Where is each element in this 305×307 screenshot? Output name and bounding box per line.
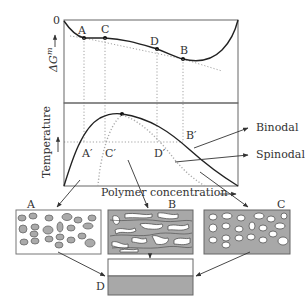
critical-point-marker xyxy=(120,112,124,116)
point-d-prime-label: D′ xyxy=(154,147,166,160)
delta-g-axis-label: ΔG m xyxy=(45,47,60,73)
morphology-d-label: D xyxy=(96,280,105,293)
point-a-label: A xyxy=(77,24,87,37)
x-axis-label: Polymer concentration xyxy=(101,186,228,199)
spinodal-label: Spinodal xyxy=(256,148,305,161)
phase-diagram: 0 ΔG m A C D B Temperature xyxy=(0,0,305,307)
binodal-pointer xyxy=(194,128,248,148)
common-tangent-line xyxy=(70,36,222,71)
point-d-label: D xyxy=(150,35,159,48)
phase-panel: Temperature A′ C′ D′ B′ Polymer concentr… xyxy=(40,103,305,199)
free-energy-panel: 0 ΔG m A C D B xyxy=(45,14,238,103)
arrow-to-a xyxy=(57,180,80,207)
arrow-to-b xyxy=(128,160,148,208)
svg-text:ΔG: ΔG xyxy=(47,55,60,73)
svg-text:m: m xyxy=(45,47,54,55)
morphology-b: B xyxy=(108,198,193,254)
arrow-c-to-d xyxy=(196,252,250,276)
point-b-prime-label: B′ xyxy=(186,129,197,142)
temperature-axis-label: Temperature xyxy=(40,106,53,178)
point-c-label: C xyxy=(101,23,109,36)
morphology-c-label: C xyxy=(277,198,285,211)
spinodal-pointer xyxy=(175,155,248,162)
point-b-label: B xyxy=(180,44,188,57)
svg-text:Temperature: Temperature xyxy=(40,106,53,178)
binodal-label: Binodal xyxy=(256,121,299,134)
morphology-a: A xyxy=(16,198,101,254)
point-c-prime-label: C′ xyxy=(105,147,116,160)
projection-lines xyxy=(64,38,183,142)
point-a-prime-label: A′ xyxy=(81,147,93,160)
zero-label: 0 xyxy=(53,14,60,27)
morphology-d: D xyxy=(96,259,193,295)
morphology-b-label: B xyxy=(168,198,176,211)
arrow-a-to-d xyxy=(58,252,105,276)
morphology-a-label: A xyxy=(26,198,36,211)
